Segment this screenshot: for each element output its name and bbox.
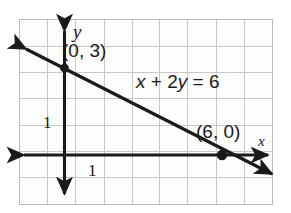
x-axis-label: x: [258, 134, 265, 149]
coordinate-plane-figure: y x (0, 3) (6, 0) x + 2y = 6 1 1: [0, 0, 291, 213]
x-intercept-point-label: (6, 0): [196, 122, 240, 141]
equation-term-y: y: [178, 71, 188, 92]
axes-and-line-layer: [0, 0, 291, 213]
equation-term-x: x: [136, 71, 146, 92]
equation-equals-sign: =: [193, 71, 204, 92]
point-marker-x-intercept: [217, 150, 227, 160]
unit-label-horizontal: 1: [88, 162, 97, 179]
equation-label: x + 2y = 6: [136, 72, 220, 91]
equation-value-6: 6: [209, 71, 220, 92]
y-axis-label: y: [73, 22, 81, 41]
equation-plus-sign: +: [151, 71, 162, 92]
y-intercept-point-label: (0, 3): [62, 41, 106, 60]
unit-label-vertical: 1: [43, 114, 52, 131]
point-marker-y-intercept: [60, 64, 69, 73]
equation-coefficient-2: 2: [167, 71, 178, 92]
